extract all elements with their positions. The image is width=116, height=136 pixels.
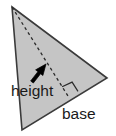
diagram-canvas	[0, 0, 116, 136]
triangle-diagram: height base	[0, 0, 116, 136]
height-label: height	[11, 83, 53, 99]
base-label: base	[62, 106, 96, 122]
